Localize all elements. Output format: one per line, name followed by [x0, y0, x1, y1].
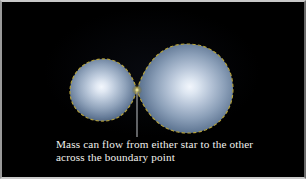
- right-star-lobe: [137, 44, 233, 133]
- caption-line-2: across the boundary point: [56, 151, 266, 164]
- left-star-lobe: [70, 59, 137, 121]
- caption-line-1: Mass can flow from either star to the ot…: [56, 138, 266, 151]
- astronomy-figure: Mass can flow from either star to the ot…: [0, 0, 306, 179]
- right-star-surface: [137, 44, 233, 133]
- figure-caption: Mass can flow from either star to the ot…: [56, 138, 266, 163]
- inner-lagrange-point-core: [136, 89, 139, 92]
